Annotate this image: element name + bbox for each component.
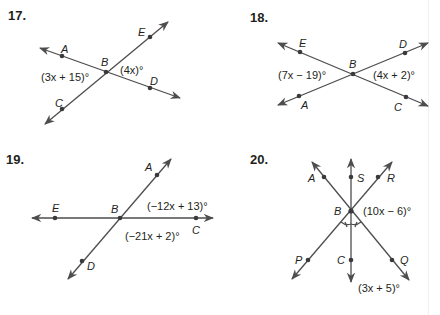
- label-B: B: [101, 56, 108, 68]
- point-E: [148, 35, 153, 40]
- point-A: [297, 94, 302, 99]
- point-C: [194, 216, 199, 221]
- label-C: C: [55, 97, 63, 109]
- tick-mark-CBQ: [355, 222, 357, 227]
- angle-RBQ-expression: (10x − 6)°: [363, 205, 411, 217]
- point-C: [404, 95, 409, 100]
- point-A: [322, 175, 327, 180]
- point-D: [80, 259, 85, 264]
- angle-ABC-expression: (−12x + 13)°: [147, 200, 208, 212]
- point-B: [104, 70, 109, 75]
- label-A: A: [60, 43, 68, 55]
- label-B: B: [111, 203, 118, 215]
- figure-18: E D B A C (7x − 19)° (4x + 2)°: [278, 37, 428, 113]
- figure-17: A B E D C (3x + 15)° (4x)°: [40, 22, 180, 124]
- label-D: D: [150, 75, 158, 87]
- point-D: [403, 51, 408, 56]
- label-Q: Q: [400, 254, 409, 266]
- point-E: [298, 50, 303, 55]
- label-C: C: [394, 101, 402, 113]
- point-A: [155, 173, 160, 178]
- label-R: R: [387, 172, 395, 184]
- label-D: D: [399, 38, 407, 50]
- label-E: E: [52, 202, 60, 214]
- angle-EBD-expression: (4x)°: [120, 64, 143, 76]
- label-D: D: [87, 260, 95, 272]
- label-E: E: [299, 37, 307, 49]
- tick-mark-PBC: [345, 222, 347, 227]
- angle-CBQ-expression: (3x + 5)°: [358, 282, 400, 294]
- label-A: A: [307, 172, 315, 184]
- angle-CBD-expression: (−21x + 2)°: [125, 230, 180, 242]
- point-B: [118, 216, 123, 221]
- label-P: P: [295, 254, 303, 266]
- point-B: [348, 208, 353, 213]
- figures-canvas: A B E D C (3x + 15)° (4x)° E D B A C (7x…: [0, 0, 440, 315]
- point-Q: [390, 258, 395, 263]
- label-C: C: [192, 224, 200, 236]
- angle-EBA-expression: (7x − 19)°: [278, 69, 326, 81]
- point-E: [53, 216, 58, 221]
- point-R: [376, 175, 381, 180]
- figure-19: A E B C D (−12x + 13)° (−21x + 2)°: [32, 159, 213, 279]
- label-B: B: [334, 205, 341, 217]
- angle-ABC-expression: (3x + 15)°: [41, 71, 89, 83]
- label-B: B: [349, 58, 356, 70]
- label-A: A: [144, 161, 152, 173]
- point-C: [349, 258, 354, 263]
- point-S: [349, 175, 354, 180]
- angle-DBC-expression: (4x + 2)°: [373, 69, 415, 81]
- figure-20: A S R B P C Q (10x − 6)° (3x + 5)°: [292, 159, 411, 294]
- label-E: E: [138, 26, 146, 38]
- label-A: A: [300, 99, 308, 111]
- point-B: [351, 72, 356, 77]
- point-P: [306, 258, 311, 263]
- label-S: S: [357, 172, 365, 184]
- label-C: C: [337, 254, 345, 266]
